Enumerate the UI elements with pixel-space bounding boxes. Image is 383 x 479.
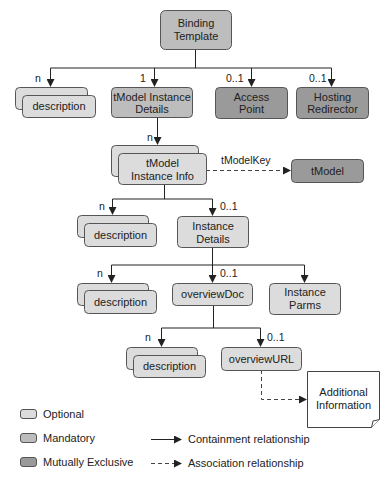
node-overview-doc: overviewDoc <box>173 284 253 306</box>
hosting-redirector-line1: Hosting <box>314 91 351 103</box>
legend-swatch-optional <box>21 410 37 419</box>
hosting-redirector-line2: Redirector <box>307 103 358 115</box>
description-1-label: description <box>32 100 85 112</box>
cardinality-description-4: n <box>145 331 151 343</box>
additional-info-line2: Information <box>316 399 371 411</box>
instance-parms-line2: Parms <box>289 299 321 311</box>
node-tmodel-instance-details: tModel Instance Details <box>112 88 193 118</box>
node-overview-url: overviewURL <box>222 348 302 371</box>
overview-url-label: overviewURL <box>229 353 294 365</box>
cardinality-overview-url: 0..1 <box>267 331 285 343</box>
node-tmodel: tModel <box>292 160 364 183</box>
instance-details-line1: Instance <box>192 220 234 232</box>
description-2-label: description <box>94 229 147 241</box>
legend-association: Association relationship <box>188 457 304 469</box>
legend-swatch-mandatory <box>21 434 37 443</box>
node-description-1: description <box>16 88 96 118</box>
cardinality-description-1: n <box>35 72 41 84</box>
access-point-line1: Access <box>234 91 270 103</box>
binding-template-diagram: Binding Template description n tModel In… <box>0 0 383 479</box>
association-label-tmodelkey: tModelKey <box>221 154 271 166</box>
cardinality-description-3: n <box>97 267 103 279</box>
cardinality-access-point: 0..1 <box>226 72 244 84</box>
description-4-label: description <box>143 360 196 372</box>
legend-containment: Containment relationship <box>188 433 310 445</box>
tmodel-instance-info-line2: Instance Info <box>131 170 194 182</box>
node-access-point: Access Point <box>216 88 288 119</box>
node-hosting-redirector: Hosting Redirector <box>297 88 369 119</box>
access-point-line2: Point <box>239 103 264 115</box>
node-instance-parms: Instance Parms <box>270 284 341 315</box>
cardinality-hosting-redirector: 0..1 <box>309 72 327 84</box>
tmodel-instance-details-line2: Details <box>135 103 169 115</box>
cardinality-overview-doc: 0..1 <box>220 267 238 279</box>
cardinality-tmodel-instance-info: n <box>147 131 153 143</box>
binding-template-line2: Template <box>174 30 219 42</box>
cardinality-tmodel-instance-details: 1 <box>140 72 146 84</box>
binding-template-line1: Binding <box>178 17 215 29</box>
legend-swatch-mutually-exclusive <box>21 458 37 467</box>
legend-mandatory: Mandatory <box>43 432 95 444</box>
description-3-label: description <box>94 296 147 308</box>
instance-parms-line1: Instance <box>284 286 326 298</box>
cardinality-instance-details: 0..1 <box>220 200 238 212</box>
tmodel-instance-details-line1: tModel Instance <box>113 91 191 103</box>
node-instance-details: Instance Details <box>178 217 249 248</box>
tmodel-instance-info-line1: tModel <box>146 157 179 169</box>
cardinality-description-2: n <box>99 200 105 212</box>
node-description-2: description <box>78 216 157 247</box>
node-tmodel-instance-info: tModel Instance Info <box>112 146 207 185</box>
instance-details-line2: Details <box>196 233 230 245</box>
node-description-3: description <box>78 284 157 314</box>
additional-info-line1: Additional <box>319 386 367 398</box>
overview-doc-label: overviewDoc <box>181 288 244 300</box>
node-binding-template: Binding Template <box>161 11 232 50</box>
node-additional-information: Additional Information <box>308 372 380 428</box>
tmodel-label: tModel <box>311 165 344 177</box>
folded-corner-icon <box>372 420 380 428</box>
node-description-4: description <box>127 348 206 378</box>
legend-mutually-exclusive: Mutually Exclusive <box>43 456 133 468</box>
legend-optional: Optional <box>43 408 84 420</box>
legend: Optional Mandatory Mutually Exclusive Co… <box>21 408 310 469</box>
